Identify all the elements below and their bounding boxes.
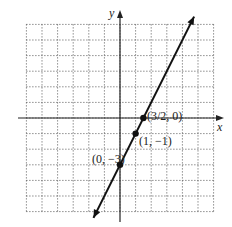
point-x-intercept bbox=[140, 115, 146, 121]
coordinate-plane: x y (3/2, 0) (1, −1) (0, −3) bbox=[0, 0, 232, 227]
axes: x y bbox=[18, 6, 224, 222]
x-axis-label: x bbox=[216, 120, 223, 134]
label-y-intercept: (0, −3) bbox=[92, 152, 125, 166]
point-1-neg1 bbox=[132, 130, 138, 136]
label-x-intercept: (3/2, 0) bbox=[147, 109, 182, 123]
y-axis-label: y bbox=[108, 6, 115, 20]
y-axis-arrow-icon bbox=[117, 10, 123, 18]
label-point-1-neg1: (1, −1) bbox=[139, 134, 172, 148]
